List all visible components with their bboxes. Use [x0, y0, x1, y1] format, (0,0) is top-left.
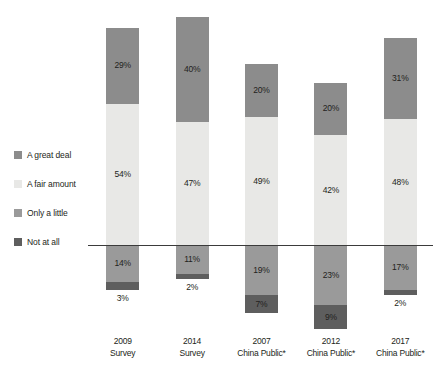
bar-segment[interactable]: 20% — [245, 64, 278, 116]
legend-item-label: A fair amount — [27, 179, 76, 189]
bar-group[interactable]: 47%40%11%2% — [176, 0, 209, 330]
bar-segment[interactable] — [384, 290, 417, 295]
x-axis-tick-line: 2014 — [157, 336, 226, 348]
legend-item-label: A great deal — [27, 150, 71, 160]
x-axis-tick-line: China Public* — [296, 348, 365, 360]
x-axis-tick-line: Survey — [88, 348, 157, 360]
bar-group[interactable]: 48%31%17%2% — [384, 0, 417, 330]
bar-segment[interactable]: 54% — [106, 104, 139, 245]
bar-segment-label: 48% — [392, 178, 408, 187]
bar-segment[interactable]: 49% — [245, 117, 278, 245]
bar-segment[interactable]: 7% — [245, 295, 278, 313]
bar-segment[interactable]: 42% — [314, 135, 347, 245]
legend-swatch-icon — [14, 209, 22, 217]
bar-segment-label: 14% — [114, 259, 130, 268]
bar-group[interactable]: 54%29%14%3% — [106, 0, 139, 330]
bar-segment-label: 11% — [184, 255, 200, 264]
bar-segment[interactable]: 40% — [176, 17, 209, 122]
bar-segment[interactable]: 47% — [176, 122, 209, 245]
bar-segment-label: 17% — [392, 263, 408, 272]
x-axis-tick-line: 2007 — [227, 336, 296, 348]
bar-segment-label: 2% — [384, 298, 417, 308]
bar-segment-label: 19% — [253, 266, 269, 275]
bar-segment[interactable]: 17% — [384, 245, 417, 290]
bar-segment[interactable]: 14% — [106, 245, 139, 282]
bar-segment[interactable] — [106, 282, 139, 290]
x-axis-tick-line: 2009 — [88, 336, 157, 348]
bar-segment-label: 20% — [323, 104, 339, 113]
x-axis-tick-label: 2017China Public* — [366, 336, 435, 359]
bar-group[interactable]: 42%20%23%9% — [314, 0, 347, 330]
bar-segment-label: 47% — [184, 179, 200, 188]
legend-item-label: Only a little — [27, 208, 68, 218]
bar-segment-label: 42% — [323, 186, 339, 195]
bar-segment-label: 49% — [253, 177, 269, 186]
x-axis-tick-label: 2012China Public* — [296, 336, 365, 359]
x-axis-tick-line: 2012 — [296, 336, 365, 348]
bar-segment-label: 40% — [184, 65, 200, 74]
bar-segment-label: 31% — [392, 74, 408, 83]
bar-segment[interactable]: 11% — [176, 245, 209, 274]
x-axis-tick-line: China Public* — [366, 348, 435, 360]
x-axis-tick-line: 2017 — [366, 336, 435, 348]
bar-segment[interactable]: 23% — [314, 245, 347, 305]
bar-segment[interactable] — [176, 274, 209, 279]
plot-area: 54%29%14%3%47%40%11%2%49%20%19%7%42%20%2… — [88, 0, 435, 330]
bar-segment-label: 23% — [323, 271, 339, 280]
x-axis-tick-line: Survey — [157, 348, 226, 360]
zero-baseline-axis — [88, 245, 433, 246]
x-axis-tick-label: 2007China Public* — [227, 336, 296, 359]
x-axis-tick-label: 2014Survey — [157, 336, 226, 359]
bar-segment-label: 3% — [106, 293, 139, 303]
bar-segment-label: 2% — [176, 282, 209, 292]
bar-segment[interactable]: 31% — [384, 38, 417, 119]
legend-swatch-icon — [14, 238, 22, 246]
legend-item-label: Not at all — [27, 237, 60, 247]
x-axis-tick-line: China Public* — [227, 348, 296, 360]
bar-segment-label: 9% — [325, 313, 337, 322]
bar-segment-label: 54% — [114, 170, 130, 179]
bar-segment-label: 20% — [253, 86, 269, 95]
bar-segment[interactable]: 20% — [314, 83, 347, 135]
bar-segment[interactable]: 48% — [384, 119, 417, 245]
bar-group[interactable]: 49%20%19%7% — [245, 0, 278, 330]
legend-swatch-icon — [14, 180, 22, 188]
bar-segment-label: 29% — [114, 61, 130, 70]
stacked-bar-chart: A great deal A fair amount Only a little… — [0, 0, 435, 378]
bar-segment[interactable]: 19% — [245, 245, 278, 295]
bar-segment-label: 7% — [256, 300, 268, 309]
x-axis-tick-label: 2009Survey — [88, 336, 157, 359]
legend-swatch-icon — [14, 151, 22, 159]
bar-segment[interactable]: 29% — [106, 28, 139, 104]
bar-segment[interactable]: 9% — [314, 305, 347, 329]
